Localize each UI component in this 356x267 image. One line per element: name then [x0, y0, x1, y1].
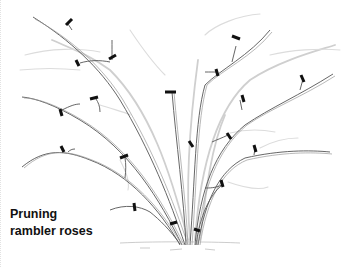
pruning-illustration: Pruning rambler roses	[0, 0, 356, 267]
cut-marks	[60, 19, 304, 231]
caption-line-2: rambler roses	[10, 223, 93, 240]
figure-caption: Pruning rambler roses	[10, 206, 93, 240]
ground	[120, 242, 240, 250]
caption-line-1: Pruning	[10, 206, 93, 223]
